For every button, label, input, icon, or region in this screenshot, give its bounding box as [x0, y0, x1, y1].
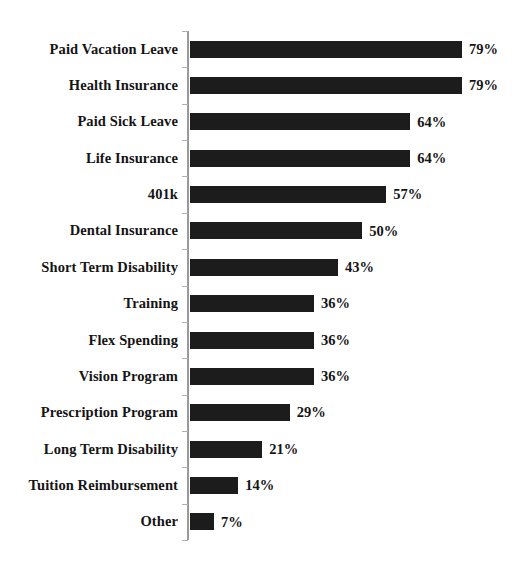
plot-area: Paid Vacation Leave79%Health Insurance79… [0, 0, 527, 562]
category-label: Life Insurance [0, 140, 178, 176]
chart-row: Tuition Reimbursement14% [0, 467, 527, 503]
bar-value-label: 14% [245, 478, 274, 493]
category-label: Paid Sick Leave [0, 104, 178, 140]
bar [190, 186, 386, 203]
bar-value-label: 79% [469, 78, 498, 93]
category-label: Short Term Disability [0, 249, 178, 285]
bar [190, 332, 314, 349]
chart-row: Long Term Disability21% [0, 431, 527, 467]
bar-group: 36% [190, 286, 350, 322]
chart-row: Health Insurance79% [0, 67, 527, 103]
category-label: Training [0, 286, 178, 322]
bar [190, 368, 314, 385]
bar-group: 14% [190, 467, 274, 503]
bar-value-label: 57% [393, 187, 422, 202]
chart-row: Short Term Disability43% [0, 249, 527, 285]
bar [190, 77, 462, 94]
bar [190, 441, 262, 458]
chart-row: Flex Spending36% [0, 322, 527, 358]
bar-value-label: 7% [221, 515, 243, 530]
bar-group: 36% [190, 322, 350, 358]
category-label: Tuition Reimbursement [0, 467, 178, 503]
chart-row: Vision Program36% [0, 358, 527, 394]
bar [190, 222, 362, 239]
bar-value-label: 36% [321, 296, 350, 311]
bar-group: 36% [190, 358, 350, 394]
bar-value-label: 36% [321, 369, 350, 384]
bar-group: 64% [190, 140, 446, 176]
chart-row: Training36% [0, 286, 527, 322]
axis-tick [182, 540, 188, 541]
bar-value-label: 64% [417, 115, 446, 130]
bar [190, 404, 290, 421]
category-label: Paid Vacation Leave [0, 31, 178, 67]
bar-group: 7% [190, 504, 243, 540]
bar-group: 79% [190, 67, 498, 103]
category-label: Flex Spending [0, 322, 178, 358]
category-label: Health Insurance [0, 67, 178, 103]
chart-row: 401k57% [0, 176, 527, 212]
bar-value-label: 79% [469, 42, 498, 57]
bar-value-label: 21% [269, 442, 298, 457]
bar-chart: Paid Vacation Leave79%Health Insurance79… [0, 0, 527, 562]
category-label: Long Term Disability [0, 431, 178, 467]
category-label: 401k [0, 176, 178, 212]
bar-value-label: 50% [369, 224, 398, 239]
bar-group: 43% [190, 249, 374, 285]
bar-group: 79% [190, 31, 498, 67]
category-label: Vision Program [0, 358, 178, 394]
bar [190, 259, 338, 276]
bar-value-label: 36% [321, 333, 350, 348]
bar-group: 29% [190, 395, 326, 431]
bar [190, 477, 238, 494]
chart-row: Paid Sick Leave64% [0, 104, 527, 140]
chart-row: Other7% [0, 504, 527, 540]
bar-value-label: 29% [297, 405, 326, 420]
category-label: Other [0, 504, 178, 540]
bar-group: 64% [190, 104, 446, 140]
chart-row: Dental Insurance50% [0, 213, 527, 249]
category-label: Dental Insurance [0, 213, 178, 249]
bar [190, 150, 410, 167]
chart-row: Prescription Program29% [0, 395, 527, 431]
chart-row: Paid Vacation Leave79% [0, 31, 527, 67]
bar [190, 295, 314, 312]
bar-group: 50% [190, 213, 398, 249]
bar [190, 113, 410, 130]
bar-group: 57% [190, 176, 422, 212]
bar-value-label: 43% [345, 260, 374, 275]
bar [190, 513, 214, 530]
bar [190, 41, 462, 58]
category-label: Prescription Program [0, 395, 178, 431]
bar-value-label: 64% [417, 151, 446, 166]
bar-group: 21% [190, 431, 298, 467]
chart-row: Life Insurance64% [0, 140, 527, 176]
